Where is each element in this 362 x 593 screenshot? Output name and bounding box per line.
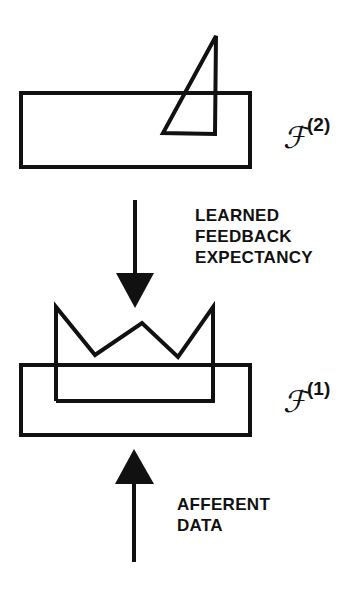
feedback-arrow-head: [116, 273, 154, 308]
feedback-label: LEARNED FEEDBACK EXPECTANCY: [195, 205, 313, 268]
afferent-label-line2: DATA: [177, 515, 270, 536]
afferent-label-line1: AFFERENT: [177, 494, 270, 515]
afferent-arrow-head: [115, 449, 154, 484]
afferent-label: AFFERENT DATA: [177, 494, 270, 536]
f2-triangle-pattern: [163, 36, 216, 134]
f2-symbol: ℱ: [283, 120, 307, 155]
expectancy-pattern: [56, 307, 213, 401]
f2-superscript: (2): [307, 114, 330, 135]
feedback-label-line2: FEEDBACK: [195, 226, 313, 247]
f1-symbol: ℱ: [283, 384, 307, 419]
feedback-label-line3: EXPECTANCY: [195, 247, 313, 268]
f1-label: ℱ(1): [283, 384, 330, 419]
f2-label: ℱ(2): [283, 120, 330, 155]
feedback-label-line1: LEARNED: [195, 205, 313, 226]
f1-superscript: (1): [307, 378, 330, 399]
